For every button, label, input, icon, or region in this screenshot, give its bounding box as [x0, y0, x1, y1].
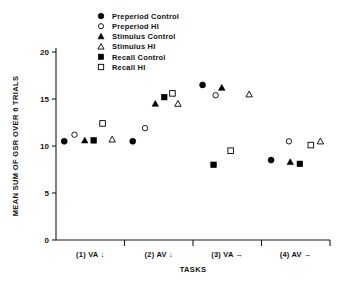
- y-tick-label-0: 0: [45, 236, 50, 245]
- legend-marker-5: [98, 64, 103, 69]
- legend-label-4: Recall Control: [112, 53, 166, 62]
- data-point: [297, 161, 303, 167]
- y-tick-label-10: 10: [40, 142, 49, 151]
- data-point: [200, 82, 206, 88]
- y-tick-label-15: 15: [40, 95, 49, 104]
- data-point: [211, 162, 217, 168]
- legend-marker-2: [98, 33, 104, 39]
- data-point: [219, 85, 225, 91]
- y-tick-label-20: 20: [40, 48, 49, 57]
- data-point: [228, 148, 234, 154]
- x-group-label-2: (2) AV ↓: [145, 250, 173, 259]
- data-point: [161, 94, 167, 100]
- data-point: [142, 125, 147, 130]
- legend-label-1: Preperiod HI: [112, 22, 159, 31]
- legend-label-3: Stimulus HI: [112, 42, 155, 51]
- data-point: [308, 142, 314, 148]
- y-tick-label-5: 5: [45, 189, 50, 198]
- x-group-label-4: (4) AV →: [280, 250, 312, 259]
- legend-label-5: Recall HI: [112, 63, 145, 72]
- legend-marker-3: [98, 44, 104, 50]
- legend-marker-1: [98, 24, 103, 29]
- chart-canvas: 05101520MEAN SUM OF GSR OVER 6 TRIALS(1)…: [0, 0, 344, 284]
- data-point: [213, 93, 218, 98]
- x-group-label-1: (1) VA ↓: [76, 250, 104, 259]
- data-point: [170, 91, 176, 97]
- data-point: [287, 159, 293, 165]
- data-point: [100, 121, 106, 127]
- x-group-label-3: (3) VA →: [211, 250, 243, 259]
- data-point: [61, 138, 67, 144]
- data-point: [91, 138, 97, 144]
- gsr-scatter-chart: 05101520MEAN SUM OF GSR OVER 6 TRIALS(1)…: [0, 0, 344, 284]
- data-point: [175, 101, 181, 107]
- data-point: [72, 132, 77, 137]
- data-point: [130, 138, 136, 144]
- legend-marker-4: [98, 54, 103, 59]
- data-point: [317, 138, 323, 144]
- data-point: [286, 139, 291, 144]
- data-point: [268, 157, 274, 163]
- x-axis-title: TASKS: [180, 265, 207, 274]
- y-axis-title: MEAN SUM OF GSR OVER 6 TRIALS: [11, 76, 20, 217]
- data-point: [82, 137, 88, 143]
- data-point: [246, 91, 252, 97]
- data-point: [109, 136, 115, 142]
- legend-marker-0: [98, 13, 104, 19]
- legend-label-2: Stimulus Control: [112, 32, 176, 41]
- data-point: [152, 101, 158, 107]
- legend-label-0: Preperiod Control: [112, 12, 179, 21]
